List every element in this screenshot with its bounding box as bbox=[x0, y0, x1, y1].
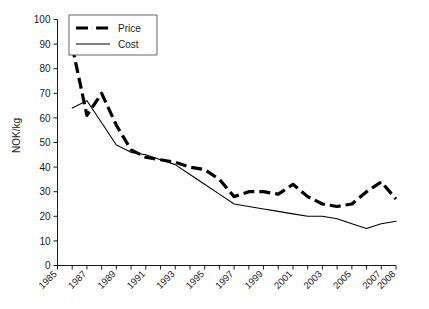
x-tick-label: 2001 bbox=[272, 268, 295, 291]
series-line-cost bbox=[72, 101, 396, 229]
chart-figure: NOK/kg 0102030405060708090100 1985198719… bbox=[0, 0, 429, 309]
legend-label-cost: Cost bbox=[118, 39, 139, 50]
y-tick-label: 70 bbox=[39, 88, 51, 99]
x-tick-label: 1999 bbox=[242, 268, 265, 291]
x-axis-tick-group: 1985198719891991199319951997199920012003… bbox=[36, 266, 397, 291]
x-tick-label: 2005 bbox=[331, 268, 354, 291]
x-tick-label: 1991 bbox=[124, 268, 147, 291]
y-tick-label: 60 bbox=[39, 113, 51, 124]
y-tick-label: 20 bbox=[39, 211, 51, 222]
x-tick-label: 1997 bbox=[213, 268, 236, 291]
y-axis-tick-group: 0102030405060708090100 bbox=[34, 14, 58, 271]
series-line-price bbox=[72, 47, 396, 207]
y-tick-label: 50 bbox=[39, 137, 51, 148]
y-tick-label: 90 bbox=[39, 39, 51, 50]
x-tick-label: 1987 bbox=[66, 268, 89, 291]
chart-legend: Price Cost bbox=[69, 15, 157, 55]
y-tick-label: 80 bbox=[39, 63, 51, 74]
x-tick-label: 1995 bbox=[183, 268, 206, 291]
x-tick-label: 1989 bbox=[95, 268, 118, 291]
x-tick-label: 1985 bbox=[36, 268, 59, 291]
y-tick-label: 10 bbox=[39, 236, 51, 247]
y-tick-label: 30 bbox=[39, 186, 51, 197]
y-tick-label: 100 bbox=[34, 14, 51, 25]
y-tick-label: 40 bbox=[39, 162, 51, 173]
legend-label-price: Price bbox=[118, 23, 141, 34]
x-tick-label: 1993 bbox=[154, 268, 177, 291]
line-chart-plot: 0102030405060708090100 19851987198919911… bbox=[0, 0, 429, 309]
x-tick-label: 2003 bbox=[301, 268, 324, 291]
legend-box bbox=[69, 15, 157, 55]
